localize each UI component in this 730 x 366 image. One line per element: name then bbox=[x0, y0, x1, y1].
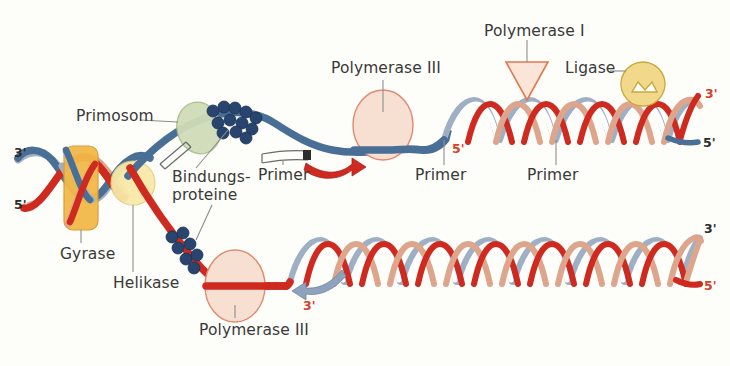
label-polymerase3-top: Polymerase III bbox=[331, 59, 441, 77]
replication-fork-figure: Primosom Bindungs- proteine Gyrase Helik… bbox=[0, 0, 730, 366]
end-marker-left-top-3prime: 3' bbox=[14, 145, 27, 160]
label-polymerase1: Polymerase I bbox=[484, 22, 585, 40]
polymerase1-triangle bbox=[506, 62, 548, 100]
label-helikase: Helikase bbox=[113, 274, 179, 292]
end-marker-right-bottom-3prime: 3' bbox=[704, 221, 717, 236]
end-marker-right-top-5prime: 5' bbox=[703, 135, 716, 150]
end-marker-leading-arrow-3prime: 3' bbox=[303, 298, 316, 313]
label-bindungsproteine-line2: proteine bbox=[172, 186, 237, 204]
label-primosom: Primosom bbox=[76, 107, 154, 125]
end-marker-lagging-primer-5prime: 5' bbox=[452, 141, 465, 156]
figure-canvas bbox=[0, 0, 730, 366]
label-primer-2: Primer bbox=[415, 166, 466, 184]
template-through-pol3 bbox=[354, 149, 424, 150]
label-ligase: Ligase bbox=[565, 59, 616, 77]
end-marker-right-bottom-5prime: 5' bbox=[704, 278, 717, 293]
bindungsproteine-leader-line-lower bbox=[196, 205, 212, 240]
lagging-synthesis-arrow bbox=[304, 158, 366, 178]
lagging-product-helix bbox=[424, 96, 700, 150]
ligase-shape bbox=[621, 62, 665, 106]
okazaki-primer-tube bbox=[262, 150, 311, 163]
label-gyrase: Gyrase bbox=[60, 245, 115, 263]
label-primer-3: Primer bbox=[527, 166, 578, 184]
end-marker-right-top-3prime: 3' bbox=[705, 86, 718, 101]
label-primer-1: Primer bbox=[258, 166, 309, 184]
label-polymerase3-bottom: Polymerase III bbox=[199, 321, 309, 339]
leading-product-helix bbox=[286, 237, 701, 286]
label-bindungsproteine-line1: Bindungs- bbox=[172, 168, 251, 186]
end-marker-left-bottom-5prime: 5' bbox=[14, 197, 27, 212]
